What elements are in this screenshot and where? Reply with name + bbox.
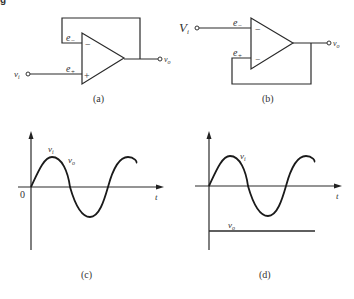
inv-sign-b: − <box>255 24 261 35</box>
x-axis-arrow-d <box>334 184 342 189</box>
t-axis-label-d: t <box>336 191 339 201</box>
y-axis-arrow-d <box>207 131 212 139</box>
input-terminal-b <box>195 26 199 30</box>
output-label-b: vo <box>333 39 340 49</box>
panel-b-circuit: e− e+ − − vo Vi (b) <box>179 17 340 105</box>
panel-d-plot: t vi vo (d) <box>195 131 342 281</box>
caption-d: (d) <box>259 269 271 281</box>
noninv-sign-a: + <box>84 70 90 81</box>
panel-c-plot: 0 t vi vo (c) <box>18 131 164 281</box>
vo-label-c: vo <box>68 155 75 166</box>
caption-b: (b) <box>262 93 274 105</box>
vi-label-c: vi <box>48 144 54 155</box>
vi-label-d: vi <box>240 151 246 162</box>
y-axis-arrow-c <box>29 131 34 139</box>
noninv-sign-b: − <box>255 54 260 64</box>
output-label-a: vo <box>164 55 171 65</box>
vo-label-d: vo <box>228 220 235 231</box>
feedback-wire-b <box>232 43 311 84</box>
caption-a: (a) <box>93 93 104 105</box>
figure-canvas: e− e+ − + vo vi (a) e− e+ − − vo Vi (b) … <box>0 0 354 299</box>
caption-c: (c) <box>81 269 92 281</box>
input-label-b: Vi <box>179 20 189 36</box>
input-label-a: vi <box>14 69 20 80</box>
origin-label-c: 0 <box>20 189 25 200</box>
panel-a-circuit: e− e+ − + vo vi (a) <box>14 18 171 105</box>
input-terminal-a <box>26 72 30 76</box>
t-axis-label-c: t <box>155 192 158 202</box>
inv-sign-a: − <box>85 39 91 50</box>
output-terminal-a <box>158 57 162 61</box>
output-terminal-b <box>327 41 331 45</box>
x-axis-arrow-c <box>156 185 164 190</box>
